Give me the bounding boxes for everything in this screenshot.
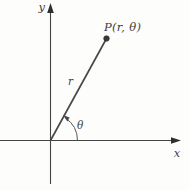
polar-diagram: y x P(r, θ) r θ [0, 0, 189, 190]
radius-label: r [68, 75, 74, 87]
x-axis-label: x [174, 146, 181, 160]
angle-arc [65, 118, 77, 141]
x-axis-arrowhead [171, 137, 181, 144]
y-axis-arrowhead [47, 3, 54, 13]
axes [0, 3, 181, 184]
point-dot [104, 36, 110, 42]
y-axis-label: y [38, 0, 46, 14]
angle-label: θ [77, 119, 84, 131]
point-label: P(r, θ) [103, 20, 141, 34]
polar-diagram-canvas: y x P(r, θ) r θ [0, 0, 189, 190]
